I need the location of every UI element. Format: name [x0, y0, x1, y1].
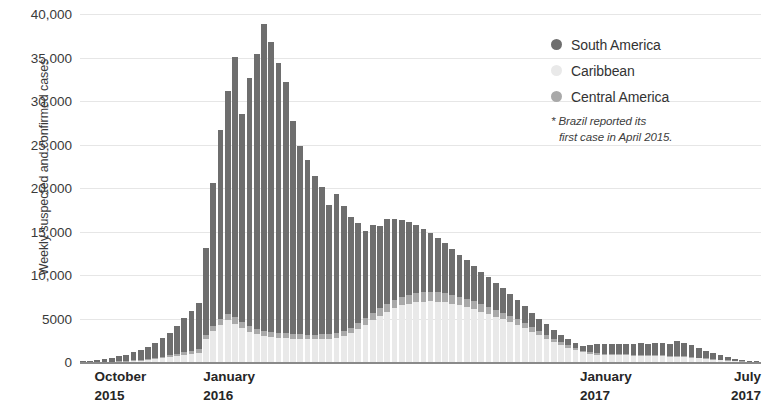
bar-segment: [696, 348, 702, 358]
bar-group: [667, 344, 673, 362]
bar-segment: [565, 345, 571, 347]
legend-swatch-caribbean-icon: [551, 65, 562, 76]
bar-segment: [413, 293, 419, 302]
bar-segment: [283, 333, 289, 338]
bar-segment: [406, 304, 412, 362]
bar-segment: [261, 24, 267, 331]
bar-segment: [522, 328, 528, 362]
bar-group: [631, 344, 637, 362]
bar-segment: [638, 343, 644, 354]
bar-group: [500, 288, 506, 362]
y-tick-label: 15,000: [8, 224, 72, 239]
x-axis-line: [80, 362, 761, 364]
bar-group: [471, 266, 477, 362]
y-tick-label: 30,000: [8, 94, 72, 109]
bar-segment: [283, 82, 289, 333]
x-tick-label: July2017: [731, 368, 761, 405]
bar-group: [565, 339, 571, 362]
bar-segment: [732, 359, 738, 361]
bar-segment: [681, 343, 687, 356]
bar-group: [232, 57, 238, 362]
bar-segment: [580, 346, 586, 351]
bar-segment: [334, 338, 340, 362]
bar-segment: [355, 223, 361, 323]
bar-segment: [710, 353, 716, 359]
bar-group: [536, 319, 542, 362]
bar-segment: [254, 334, 260, 362]
bar-segment: [580, 351, 586, 353]
bar-segment: [421, 229, 427, 293]
bar-segment: [232, 57, 238, 317]
bar-group: [399, 220, 405, 362]
bar-group: [406, 222, 412, 362]
footnote-line-2: first case in April 2015.: [551, 130, 761, 146]
bar-segment: [602, 355, 608, 362]
bar-segment: [421, 302, 427, 362]
bar-segment: [377, 316, 383, 362]
bar-group: [268, 42, 274, 362]
bar-segment: [268, 332, 274, 337]
bar-group: [254, 54, 260, 362]
bar-segment: [522, 323, 528, 328]
bar-group: [623, 344, 629, 362]
bar-segment: [515, 300, 521, 319]
bar-segment: [493, 310, 499, 317]
bar-group: [174, 326, 180, 362]
bar-segment: [181, 318, 187, 352]
bar-segment: [681, 356, 687, 357]
bar-group: [261, 24, 267, 362]
bar-segment: [457, 297, 463, 306]
bar-segment: [471, 309, 477, 362]
bar-segment: [449, 249, 455, 295]
bar-segment: [276, 63, 282, 333]
bar-group: [428, 233, 434, 362]
bar-segment: [536, 319, 542, 331]
bar-segment: [261, 336, 267, 362]
bar-segment: [652, 355, 658, 356]
bar-segment: [145, 347, 151, 359]
bar-group: [435, 238, 441, 362]
bar-segment: [565, 339, 571, 345]
bar-segment: [667, 356, 673, 357]
bar-group: [660, 343, 666, 362]
zika-weekly-cases-chart: Weekly suspected and confirmed cases 050…: [0, 0, 769, 410]
y-tick-label: 40,000: [8, 7, 72, 22]
bar-segment: [232, 324, 238, 362]
bar-segment: [449, 304, 455, 362]
bar-segment: [544, 339, 550, 362]
bar-segment: [392, 219, 398, 300]
bar-group: [602, 344, 608, 362]
bar-segment: [449, 295, 455, 304]
bar-segment: [152, 358, 158, 359]
bar-segment: [290, 334, 296, 339]
bar-group: [609, 344, 615, 362]
bar-group: [710, 353, 716, 362]
bar-segment: [493, 317, 499, 362]
bar-segment: [529, 327, 535, 332]
bar-segment: [478, 312, 484, 362]
bar-segment: [276, 333, 282, 338]
bar-segment: [660, 343, 666, 355]
bar-segment: [428, 301, 434, 362]
bar-segment: [160, 357, 166, 359]
bar-group: [449, 249, 455, 362]
bar-group: [247, 78, 253, 362]
bar-group: [167, 333, 173, 362]
bar-segment: [225, 91, 231, 314]
bar-segment: [305, 339, 311, 362]
bar-group: [638, 343, 644, 362]
bar-group: [384, 219, 390, 362]
bar-group: [377, 226, 383, 362]
bar-group: [493, 283, 499, 362]
bar-group: [718, 355, 724, 362]
bar-segment: [218, 325, 224, 362]
bar-segment: [689, 345, 695, 357]
bar-segment: [305, 160, 311, 335]
bar-segment: [326, 339, 332, 362]
bar-segment: [667, 344, 673, 355]
bar-segment: [196, 349, 202, 353]
legend-item-central-america: Central America: [551, 88, 761, 105]
bar-segment: [529, 332, 535, 362]
bar-segment: [326, 205, 332, 334]
bar-segment: [348, 328, 354, 333]
